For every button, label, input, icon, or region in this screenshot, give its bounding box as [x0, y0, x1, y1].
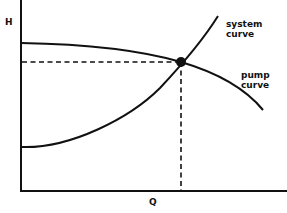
operating-point-dot: [176, 57, 186, 67]
system-curve-label: system curve: [226, 19, 262, 39]
pump-curve-label-line2: curve: [241, 80, 270, 90]
system-curve: [21, 16, 218, 147]
x-axis-label: Q: [149, 197, 157, 207]
pump-curve: [21, 43, 263, 110]
system-curve-label-line1: system: [226, 19, 262, 29]
y-axis-label: H: [5, 17, 13, 27]
pump-curve-label-line1: pump: [241, 70, 270, 80]
system-curve-label-line2: curve: [226, 29, 262, 39]
pump-curve-label: pump curve: [241, 70, 270, 90]
